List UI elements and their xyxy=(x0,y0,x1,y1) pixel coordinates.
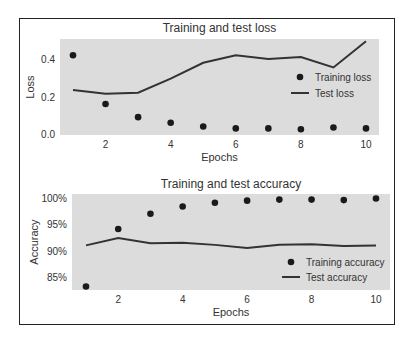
training-series-dot xyxy=(179,203,186,210)
y-tick-label: 0.4 xyxy=(41,54,55,65)
legend-label: Training accuracy xyxy=(306,257,385,268)
training-series-dot xyxy=(135,114,142,121)
training-series-dot xyxy=(244,197,251,204)
x-axis-label: Epochs xyxy=(213,306,250,318)
y-tick-label: 100% xyxy=(41,193,67,204)
training-series-dot xyxy=(373,195,380,202)
x-tick-label: 8 xyxy=(298,139,304,150)
training-series-dot xyxy=(167,119,174,126)
x-tick-label: 4 xyxy=(168,139,174,150)
training-series-dot xyxy=(308,196,315,203)
x-tick-label: 8 xyxy=(309,294,315,305)
training-series-dot xyxy=(200,123,207,130)
training-series-dot xyxy=(115,226,122,233)
x-tick-label: 4 xyxy=(180,294,186,305)
loss-chart: Training and test lossEpochsLoss2468100.… xyxy=(24,21,379,163)
chart-title: Training and test loss xyxy=(163,21,277,35)
chart-title: Training and test accuracy xyxy=(161,177,301,191)
training-series-dot xyxy=(298,126,305,133)
training-series-dot xyxy=(340,197,347,204)
y-axis-label: Accuracy xyxy=(28,219,40,265)
y-tick-label: 0.0 xyxy=(41,129,55,140)
legend-label: Test loss xyxy=(315,88,354,99)
legend-dot-marker xyxy=(288,259,295,266)
figure: Training and test lossEpochsLoss2468100.… xyxy=(0,0,414,345)
accuracy-chart: Training and test accuracyEpochsAccuracy… xyxy=(28,177,390,318)
training-series-dot xyxy=(212,199,219,206)
legend-label: Test accuracy xyxy=(306,272,367,283)
y-tick-label: 90% xyxy=(47,246,67,257)
training-series-dot xyxy=(102,101,109,108)
y-tick-label: 95% xyxy=(47,219,67,230)
training-series-dot xyxy=(83,283,90,290)
x-tick-label: 2 xyxy=(115,294,121,305)
training-series-dot xyxy=(276,196,283,203)
x-tick-label: 10 xyxy=(370,294,382,305)
y-axis-label: Loss xyxy=(24,75,36,99)
y-tick-label: 0.2 xyxy=(41,92,55,103)
legend-label: Training loss xyxy=(315,72,371,83)
x-tick-label: 2 xyxy=(103,139,109,150)
training-series-dot xyxy=(232,125,239,132)
training-series-dot xyxy=(330,124,337,131)
training-series-dot xyxy=(70,52,77,59)
plot-area xyxy=(60,39,379,135)
training-series-dot xyxy=(265,125,272,132)
x-tick-label: 6 xyxy=(233,139,239,150)
legend-dot-marker xyxy=(297,74,304,81)
x-axis-label: Epochs xyxy=(201,151,238,163)
y-tick-label: 85% xyxy=(47,272,67,283)
training-series-dot xyxy=(147,211,154,218)
training-series-dot xyxy=(363,125,370,132)
x-tick-label: 10 xyxy=(360,139,372,150)
x-tick-label: 6 xyxy=(244,294,250,305)
